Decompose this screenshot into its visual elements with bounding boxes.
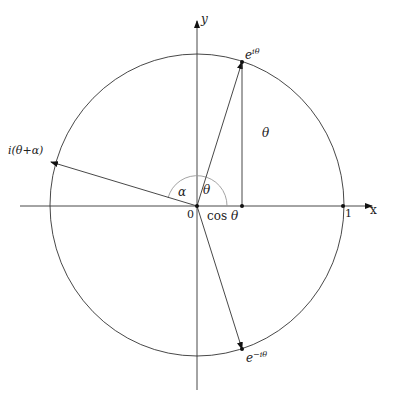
cos-fn: cos [207, 209, 227, 223]
x-axis-label: x [370, 204, 377, 216]
e-minus-i-theta-exp: −iθ [253, 350, 267, 359]
unit-label: 1 [345, 208, 352, 219]
e-i-theta-dot [240, 60, 244, 64]
origin-dot [195, 204, 199, 208]
i-theta-alpha-label: i(θ+α) [8, 145, 43, 156]
theta-side-label: θ [262, 127, 269, 139]
vector-i-theta-alpha [51, 162, 197, 206]
origin-label: 0 [187, 209, 194, 220]
y-axis-label: y [201, 13, 208, 25]
diagram-canvas [0, 0, 393, 405]
e-minus-i-theta-dot [240, 347, 244, 351]
cos-foot-dot [240, 204, 244, 208]
e-minus-i-theta-label: e−iθ [246, 351, 267, 364]
cos-arg: θ [231, 209, 238, 223]
angle-arc [168, 176, 227, 206]
e-i-theta-exp: iθ [252, 47, 259, 56]
unit-circle-diagram: y x 0 1 eiθ e−iθ i(θ+α) α θ θ cos θ [0, 0, 393, 405]
alpha-angle-label: α [178, 186, 186, 198]
cos-theta-label: cos θ [207, 210, 238, 222]
e-i-theta-label: eiθ [245, 48, 259, 61]
vector-e-minus-i-theta [197, 206, 242, 349]
theta-angle-label: θ [203, 184, 210, 196]
